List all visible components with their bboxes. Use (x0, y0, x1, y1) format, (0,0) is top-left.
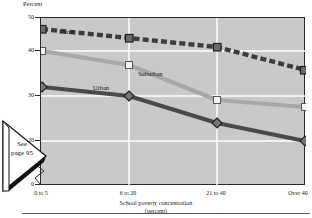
series-urban (41, 82, 306, 146)
see-page-text: See page 95 (5, 140, 39, 157)
y-tick-label-40: 40 (28, 47, 34, 53)
series-suburban (41, 48, 306, 111)
gridlines-horizontal (41, 51, 306, 141)
y-axis-title: Percent (23, 0, 42, 7)
y-tick-label-50: 50 (28, 14, 34, 20)
x-tick-label-4: Over 40 (288, 190, 308, 196)
see-page-line1: See (5, 140, 39, 149)
chart-figure: Percent 50 40 30 20 0 (0, 0, 312, 218)
see-page-line2: page 95 (5, 149, 39, 158)
plot-area: Rural Suburban Urban (40, 17, 305, 185)
see-page-callout[interactable]: See page 95 (0, 118, 48, 194)
series-label-suburban: Suburban (138, 70, 163, 77)
series-rural (41, 26, 306, 75)
y-tick-label-30: 30 (28, 92, 34, 98)
series-label-rural: Rural (59, 28, 73, 35)
x-tick-label-2: 6 to 20 (120, 190, 137, 196)
footer-rule (22, 213, 310, 214)
plot-svg (41, 18, 306, 186)
series-label-urban: Urban (93, 84, 109, 91)
x-axis-title: School poverty concentration (0, 199, 312, 206)
x-tick-label-3: 21 to 40 (206, 190, 226, 196)
